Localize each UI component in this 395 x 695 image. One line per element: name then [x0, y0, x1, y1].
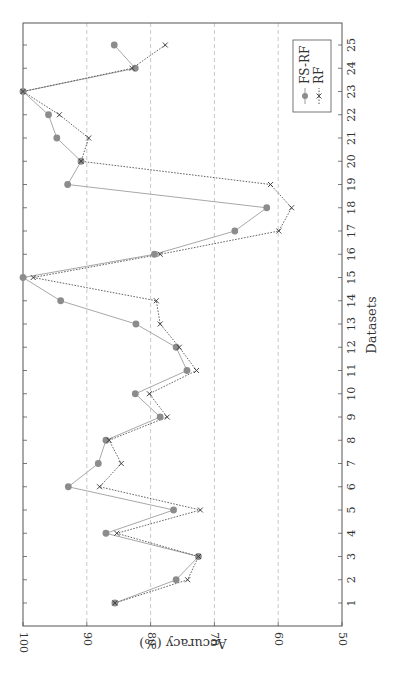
- dataset-tick-label: 9: [345, 414, 358, 421]
- dataset-tick-label: 12: [345, 340, 358, 354]
- dataset-tick-label: 18: [345, 201, 358, 215]
- accuracy-tick-label: 50: [336, 632, 349, 646]
- dataset-tick-label: 11: [345, 364, 358, 378]
- data-point-fs-rf: [151, 251, 158, 258]
- data-point-rf: [165, 415, 170, 420]
- dataset-tick-label: 25: [345, 38, 358, 52]
- circle-marker-icon: [302, 93, 308, 99]
- legend-label-rf: RF: [312, 67, 326, 84]
- dataset-tick-label: 23: [345, 85, 358, 99]
- data-point-fs-rf: [263, 204, 270, 211]
- data-point-rf: [194, 368, 199, 373]
- data-point-fs-rf: [57, 297, 64, 304]
- data-point-fs-rf: [173, 576, 180, 583]
- data-point-fs-rf: [133, 321, 140, 328]
- dataset-tick-label: 16: [345, 247, 358, 261]
- dataset-tick-label: 13: [345, 317, 358, 331]
- dataset-axis-ticks: 1234567891011121314151617181920212223242…: [23, 38, 358, 607]
- legend: FS-RF RF: [293, 40, 331, 112]
- dataset-tick-label: 4: [345, 530, 358, 537]
- legend-label-fs-rf: FS-RF: [298, 46, 312, 84]
- dataset-tick-label: 8: [345, 437, 358, 444]
- data-point-rf: [147, 391, 152, 396]
- data-point-fs-rf: [95, 460, 102, 467]
- data-point-fs-rf: [173, 344, 180, 351]
- data-point-fs-rf: [45, 111, 52, 118]
- data-point-fs-rf: [170, 507, 177, 514]
- accuracy-axis-label: Accuracy (%): [139, 636, 228, 651]
- dataset-tick-label: 5: [345, 507, 358, 514]
- data-point-rf: [57, 112, 62, 117]
- data-point-rf: [119, 461, 124, 466]
- dataset-tick-label: 15: [345, 271, 358, 285]
- dataset-tick-label: 14: [345, 294, 358, 308]
- dataset-tick-label: 22: [345, 108, 358, 122]
- data-point-fs-rf: [132, 390, 139, 397]
- data-point-fs-rf: [64, 181, 71, 188]
- dataset-tick-label: 21: [345, 131, 358, 145]
- data-point-fs-rf: [157, 414, 164, 421]
- data-point-rf: [114, 531, 119, 536]
- dataset-tick-label: 7: [345, 460, 358, 467]
- series-line-fs-rf: [23, 45, 267, 603]
- dataset-tick-label: 3: [345, 553, 358, 560]
- accuracy-tick-label: 60: [272, 632, 285, 646]
- dataset-tick-label: 17: [345, 224, 358, 238]
- dataset-tick-label: 20: [345, 154, 358, 168]
- data-point-rf: [163, 43, 168, 48]
- accuracy-tick-label: 90: [81, 632, 94, 646]
- chart-canvas: 5060708090100 12345678910111213141516171…: [0, 0, 395, 695]
- dataset-tick-label: 1: [345, 600, 358, 607]
- data-point-fs-rf: [231, 228, 238, 235]
- datasets-axis-label: Datasets: [364, 296, 379, 353]
- data-point-fs-rf: [103, 530, 110, 537]
- data-point-fs-rf: [20, 274, 27, 281]
- accuracy-tick-label: 100: [17, 632, 30, 653]
- plot-frame: [23, 23, 342, 626]
- dataset-tick-label: 19: [345, 178, 358, 192]
- data-point-rf: [289, 205, 294, 210]
- data-point-fs-rf: [103, 437, 110, 444]
- data-point-fs-rf: [184, 367, 191, 374]
- accuracy-line-chart: 5060708090100 12345678910111213141516171…: [0, 0, 395, 695]
- series-lines: [20, 42, 294, 607]
- dataset-tick-label: 2: [345, 576, 358, 583]
- data-point-fs-rf: [111, 42, 118, 49]
- data-point-rf: [185, 577, 190, 582]
- series-line-rf: [23, 45, 292, 603]
- dataset-tick-label: 6: [345, 483, 358, 490]
- data-point-rf: [198, 508, 203, 513]
- dataset-tick-label: 24: [345, 61, 358, 75]
- data-point-fs-rf: [132, 65, 139, 72]
- dataset-tick-label: 10: [345, 387, 358, 401]
- data-point-fs-rf: [53, 135, 60, 142]
- data-point-fs-rf: [65, 483, 72, 490]
- data-point-rf: [268, 182, 273, 187]
